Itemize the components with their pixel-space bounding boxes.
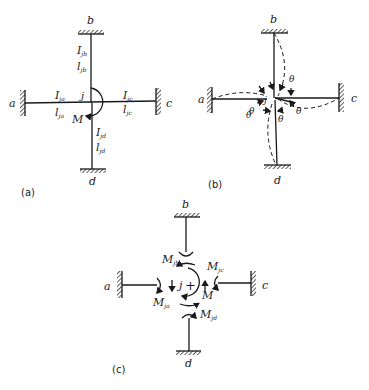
node-c-label: c: [262, 279, 268, 292]
theta-label: θ: [296, 106, 302, 116]
node-b-label: b: [87, 14, 94, 27]
fixed-support-c: [156, 88, 161, 115]
node-d-label: d: [89, 175, 96, 188]
plus-sign: +: [185, 278, 196, 293]
moment-ja-label: Mja: [152, 296, 170, 310]
theta-label: θ: [246, 110, 252, 120]
svg-text:Ijb: Ijb: [76, 44, 87, 58]
svg-text:ljb: ljb: [77, 60, 86, 74]
node-c-label: c: [351, 92, 357, 105]
deflected-shape-ja: [212, 93, 267, 99]
node-d-label: d: [274, 174, 281, 187]
member-jd-props: Ijd ljd: [95, 126, 106, 155]
panel-b-caption: (b): [208, 179, 222, 190]
svg-text:Ijc: Ijc: [122, 89, 133, 103]
moment-ja-arrow: [157, 278, 161, 293]
moment-jd-label: Mjd: [199, 308, 217, 322]
moment-M-label: M: [71, 113, 84, 126]
theta-label: θ: [289, 74, 295, 84]
svg-text:lja: lja: [55, 106, 64, 120]
moment-jb-arrow: [179, 252, 193, 256]
node-a-label: a: [104, 280, 111, 293]
fixed-support-a: [117, 271, 122, 298]
node-a-label: a: [9, 97, 16, 110]
moment-jc-label: Mjc: [206, 260, 224, 274]
panel-a: b a c d j M Ijb ljb Ija lja Ijc ljc Ijd …: [9, 14, 172, 198]
fixed-support-a: [20, 90, 25, 116]
panel-c-caption: (c): [112, 364, 125, 375]
svg-text:Ija: Ija: [54, 89, 65, 103]
member-ja-props: Ija lja: [54, 89, 65, 120]
moment-jd-arrow: [182, 315, 196, 319]
applied-moment-label: M: [201, 289, 214, 302]
member-jb-props: Ijb ljb: [76, 44, 87, 74]
panel-c: b a c d j + M Mjb Mjc Mja Mjd (c): [104, 198, 268, 375]
node-c-label: c: [166, 97, 172, 110]
fixed-support-c: [251, 271, 256, 296]
deflected-shape-jc: [278, 98, 339, 108]
deflected-shape-jb: [274, 33, 285, 96]
node-b-label: b: [270, 13, 277, 26]
member-jc-props: Ijc ljc: [122, 89, 133, 117]
svg-text:ljd: ljd: [96, 141, 105, 155]
node-d-label: d: [185, 357, 192, 370]
joint-j-label: j: [176, 279, 183, 292]
theta-label: θ: [278, 114, 284, 124]
node-b-label: b: [182, 198, 189, 211]
fixed-support-a: [207, 87, 212, 113]
joint-j-label: j: [79, 90, 84, 101]
panel-b: b a c d j θ θ θ θ θ (b): [198, 13, 357, 190]
svg-text:ljc: ljc: [123, 103, 132, 117]
fixed-support-c: [339, 83, 344, 112]
joint-j-label: j: [262, 95, 267, 105]
svg-text:Ijd: Ijd: [95, 126, 106, 140]
moment-jb-label: Mjb: [161, 253, 179, 267]
moment-jc-arrow: [215, 276, 219, 290]
node-a-label: a: [198, 93, 205, 106]
figure-canvas: b a c d j M Ijb ljb Ija lja Ijc ljc Ijd …: [0, 0, 369, 390]
panel-a-caption: (a): [21, 187, 35, 198]
